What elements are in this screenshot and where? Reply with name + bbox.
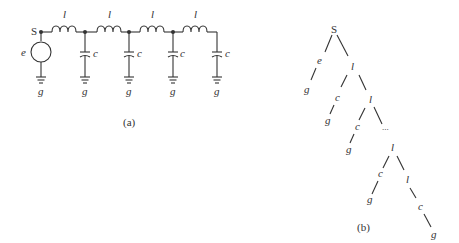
inductor-icon — [52, 26, 76, 32]
inductor-label: l — [108, 8, 111, 20]
inductor-icon — [97, 26, 121, 32]
circuit-diagram: S e g l c g — [21, 8, 230, 129]
capacitor-label: c — [225, 47, 230, 59]
caption-b: (b) — [357, 221, 370, 234]
tree-node-l: l — [351, 60, 354, 72]
tree-node-c: c — [378, 167, 383, 179]
tree-node-c: c — [335, 91, 340, 103]
voltage-source-icon — [31, 42, 51, 62]
ground-icon — [80, 77, 90, 83]
ground-icon — [36, 77, 46, 83]
inductor-label: l — [194, 8, 197, 20]
tree-node-g: g — [304, 83, 310, 95]
tree-diagram: S e g l c g l c g ... l c g l c — [304, 23, 437, 240]
tree-node-e: e — [317, 54, 322, 66]
ground-icon — [124, 77, 134, 83]
tree-node-g: g — [431, 228, 437, 240]
caption-a: (a) — [123, 116, 136, 129]
source-label: e — [21, 46, 26, 58]
capacitor-label: c — [93, 47, 98, 59]
ground-label: g — [170, 85, 176, 97]
inductor-label: l — [151, 8, 154, 20]
inductor-icon — [183, 26, 207, 32]
ground-label: g — [126, 85, 132, 97]
tree-root: S — [331, 23, 337, 35]
inductor-label: l — [63, 8, 66, 20]
ground-label: g — [214, 85, 220, 97]
capacitor-label: c — [180, 47, 185, 59]
tree-node-c: c — [418, 200, 423, 212]
inductor-icon — [140, 26, 164, 32]
figure-canvas: S e g l c g — [0, 0, 459, 243]
ground-icon — [168, 77, 178, 83]
tree-node-g: g — [346, 143, 352, 155]
ground-label: g — [82, 85, 88, 97]
ground-label: g — [38, 85, 44, 97]
ground-icon — [212, 77, 222, 83]
tree-node-l: l — [391, 141, 394, 153]
tree-node-g: g — [367, 193, 373, 205]
tree-ellipsis: ... — [382, 122, 389, 132]
tree-node-l: l — [406, 173, 409, 185]
capacitor-label: c — [137, 47, 142, 59]
tree-node-c: c — [355, 120, 360, 132]
tree-node-l: l — [369, 93, 372, 105]
tree-node-g: g — [325, 114, 331, 126]
source-node-label: S — [31, 25, 37, 37]
